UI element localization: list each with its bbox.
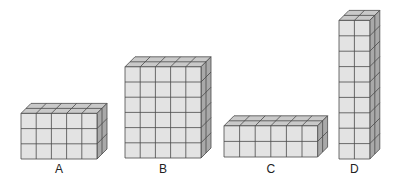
rectangular-prisms-diagram [0, 0, 400, 185]
prism-label-a: A [55, 162, 63, 176]
prism-a [21, 103, 107, 159]
prism-c [224, 116, 328, 157]
prism-label-d: D [350, 162, 359, 176]
prism-label-c: C [266, 162, 275, 176]
prism-b [125, 57, 211, 158]
prism-d [339, 10, 380, 159]
prism-label-b: B [159, 162, 167, 176]
